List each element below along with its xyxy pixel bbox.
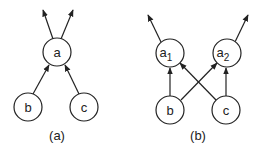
edge-b-to-a	[33, 65, 49, 94]
node-c-label: c	[81, 100, 88, 115]
node-b-label: b	[166, 103, 173, 118]
edge-a-out-left	[43, 10, 53, 39]
node-c-label: c	[223, 103, 230, 118]
caption-a: (a)	[49, 128, 65, 143]
edge-a1-out-left	[148, 15, 161, 42]
edge-b-to-a2	[181, 63, 217, 100]
diagram-a: a b c (a)	[14, 10, 98, 143]
edge-c-to-a	[65, 65, 79, 94]
node-b-label: b	[24, 100, 31, 115]
diagram-b: a1 a2 b c (b)	[148, 15, 248, 143]
diagram-canvas: a b c (a) a1 a2 b c (b)	[0, 0, 259, 153]
edge-a-out-right	[61, 10, 73, 39]
edge-c-to-a1	[180, 63, 216, 100]
caption-b: (b)	[190, 128, 206, 143]
edge-a2-out-right	[235, 15, 248, 42]
node-a-label: a	[53, 45, 61, 60]
